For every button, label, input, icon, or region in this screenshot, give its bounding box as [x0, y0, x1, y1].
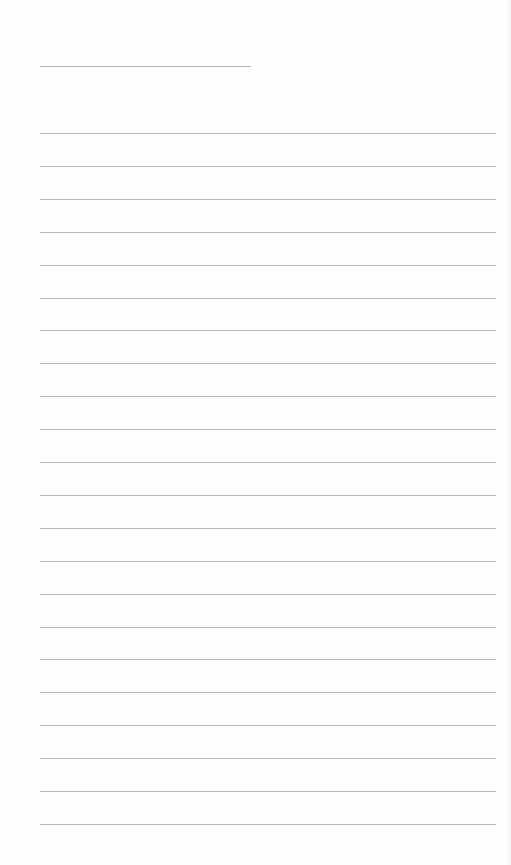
ruled-line [40, 429, 496, 430]
ruled-line [40, 166, 496, 167]
ruled-line [40, 462, 496, 463]
title-line [40, 66, 251, 67]
ruled-line [40, 528, 496, 529]
ruled-line [40, 561, 496, 562]
ruled-line [40, 692, 496, 693]
lined-paper-page [0, 0, 511, 865]
ruled-line [40, 199, 496, 200]
ruled-line [40, 265, 496, 266]
ruled-line [40, 495, 496, 496]
ruled-line [40, 659, 496, 660]
ruled-line [40, 725, 496, 726]
page-edge-shadow [505, 0, 511, 865]
ruled-line [40, 758, 496, 759]
ruled-line [40, 298, 496, 299]
ruled-line [40, 363, 496, 364]
ruled-line [40, 396, 496, 397]
ruled-line [40, 133, 496, 134]
ruled-line [40, 330, 496, 331]
ruled-line [40, 594, 496, 595]
ruled-line [40, 232, 496, 233]
ruled-line [40, 627, 496, 628]
ruled-line [40, 824, 496, 825]
ruled-line [40, 791, 496, 792]
